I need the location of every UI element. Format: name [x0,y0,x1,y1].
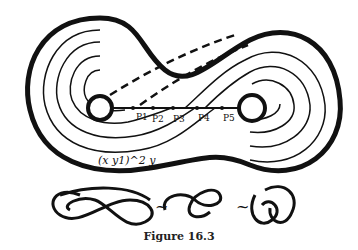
tilde-2: ~ [236,197,249,216]
label-p4: P4 [198,113,210,123]
tilde-1: ~ [155,197,168,216]
label-p2: P2 [152,114,164,124]
label-p3: P3 [173,114,185,124]
outer-boundary [28,18,341,171]
figure-diagram: P1 P2 P3 P4 P5 (x y1)^2 y ~ ~ [0,0,358,250]
word-formula: (x y1)^2 y [98,154,156,167]
knot-3 [252,187,294,223]
knot-2 [164,190,220,216]
figure-caption: Figure 16.3 [0,230,358,243]
knot-1 [53,192,152,224]
label-p1: P1 [136,112,148,122]
label-p5: P5 [223,113,235,123]
